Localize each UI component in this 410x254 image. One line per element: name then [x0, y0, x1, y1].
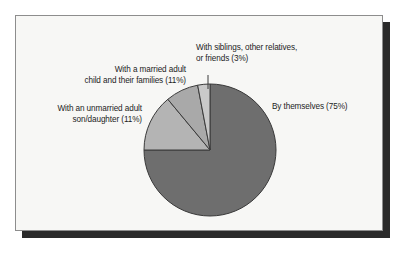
- pie-label-themselves-line-1: By themselves (75%): [272, 102, 347, 113]
- pie-label-married-adult-child: With a married adult child and their fam…: [46, 65, 186, 86]
- pie-label-unmarried-adult: With an unmarried adult son/daughter (11…: [14, 104, 142, 125]
- pie-label-siblings-line-2: or friends (3%): [196, 54, 297, 65]
- pie-label-siblings: With siblings, other relatives, or frien…: [196, 43, 297, 64]
- pie-label-married-line-1: With a married adult: [46, 65, 186, 76]
- pie-label-siblings-line-1: With siblings, other relatives,: [196, 43, 297, 54]
- pie-label-married-line-2: child and their families (11%): [46, 76, 186, 87]
- pie-label-unmarried-line-2: son/daughter (11%): [14, 115, 142, 126]
- pie-label-unmarried-line-1: With an unmarried adult: [14, 104, 142, 115]
- pie-label-by-themselves: By themselves (75%): [272, 102, 347, 113]
- figure-root: With siblings, other relatives, or frien…: [0, 0, 410, 254]
